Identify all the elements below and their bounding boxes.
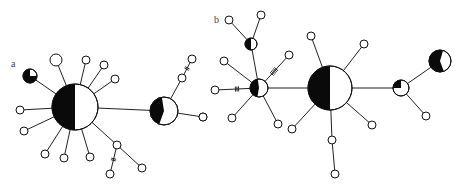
haplotype-node-white	[82, 56, 90, 64]
network-panel-a: a	[11, 54, 207, 178]
haplotype-node-black	[86, 153, 94, 161]
haplotype-node-white	[100, 61, 108, 69]
haplotype-node-white	[228, 114, 236, 122]
haplotype-node-white	[285, 51, 293, 59]
haplotype-node-black	[331, 170, 339, 178]
network-edge	[332, 140, 335, 174]
haplotype-node-black	[60, 154, 68, 162]
haplotype-node-black	[16, 106, 24, 114]
haplotype-node-pie	[150, 97, 178, 125]
haplotype-node-white	[199, 113, 207, 121]
haplotype-node-white	[178, 74, 186, 82]
haplotype-node-pie	[250, 79, 268, 97]
haplotype-node-black	[274, 120, 282, 128]
network-b-nodes	[199, 11, 451, 178]
haplotype-node-black	[307, 32, 315, 40]
haplotype-node-white	[368, 121, 376, 129]
mutation-tick-mark	[111, 158, 116, 159]
haplotype-node-white	[288, 125, 296, 133]
haplotype-network-figure: a b	[0, 0, 464, 189]
haplotype-node-pie	[429, 50, 451, 72]
haplotype-node-black	[257, 11, 265, 19]
haplotype-node-black	[211, 86, 219, 94]
haplotype-node-pie	[308, 66, 352, 110]
haplotype-node-white	[138, 164, 146, 172]
haplotype-node-white	[111, 75, 119, 83]
haplotype-node-black	[20, 127, 28, 135]
haplotype-node-pie	[52, 84, 98, 130]
haplotype-node-black	[113, 141, 121, 149]
panel-label-b: b	[214, 14, 219, 25]
haplotype-node-black	[220, 57, 228, 65]
haplotype-node-black	[188, 55, 196, 63]
haplotype-node-pie	[393, 80, 409, 96]
haplotype-node-white	[422, 112, 430, 120]
mutation-tick-mark	[111, 160, 116, 161]
haplotype-node-black	[328, 136, 336, 144]
network-edge	[117, 145, 142, 168]
haplotype-node-black	[106, 170, 114, 178]
haplotype-node-white	[360, 40, 368, 48]
haplotype-node-black	[225, 16, 233, 24]
panel-label-a: a	[11, 58, 16, 69]
haplotype-node-pie	[23, 69, 37, 83]
haplotype-node-pie	[245, 38, 257, 50]
haplotype-node-black	[41, 150, 49, 158]
haplotype-node-white	[50, 54, 62, 66]
network-panel-b: b	[199, 11, 451, 178]
